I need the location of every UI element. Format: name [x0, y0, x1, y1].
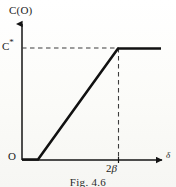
y-axis-marker-label: C* — [2, 41, 14, 52]
figure-container: C(O) C* O 2β δ Fig. 4.6 — [0, 0, 176, 187]
figure-caption: Fig. 4.6 — [0, 176, 176, 187]
origin-label: O — [8, 151, 16, 162]
curve-c-of-zero — [22, 49, 161, 160]
y-marker-superscript: * — [9, 37, 14, 47]
x-tick-label-2beta: 2β — [106, 163, 117, 174]
plot-canvas — [0, 0, 176, 187]
x-axis-label: δ — [166, 151, 170, 160]
x-tick-symbol: β — [112, 162, 117, 174]
y-axis-label: C(O) — [9, 5, 32, 16]
